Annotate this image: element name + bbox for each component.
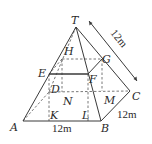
label-A: A [9, 121, 18, 134]
pyramid-diagram: T A B C D E F G H K L M N 12m 12m 12m [0, 0, 152, 144]
label-L: L [81, 109, 89, 122]
dimension-BC: 12m [117, 108, 137, 120]
label-M: M [103, 94, 116, 107]
label-N: N [62, 95, 73, 108]
edge-FG [88, 59, 102, 74]
label-G: G [102, 53, 111, 66]
dimension-AB: 12m [52, 122, 72, 134]
label-K: K [49, 109, 59, 122]
label-D: D [50, 83, 60, 96]
edge-AD [23, 92, 49, 121]
label-T: T [71, 14, 80, 27]
edge-DC [49, 91, 130, 92]
label-H: H [63, 45, 74, 58]
label-C: C [132, 90, 141, 103]
label-F: F [88, 73, 97, 86]
label-E: E [37, 67, 46, 80]
label-B: B [100, 122, 109, 135]
dimension-TC: 12m [108, 27, 130, 50]
